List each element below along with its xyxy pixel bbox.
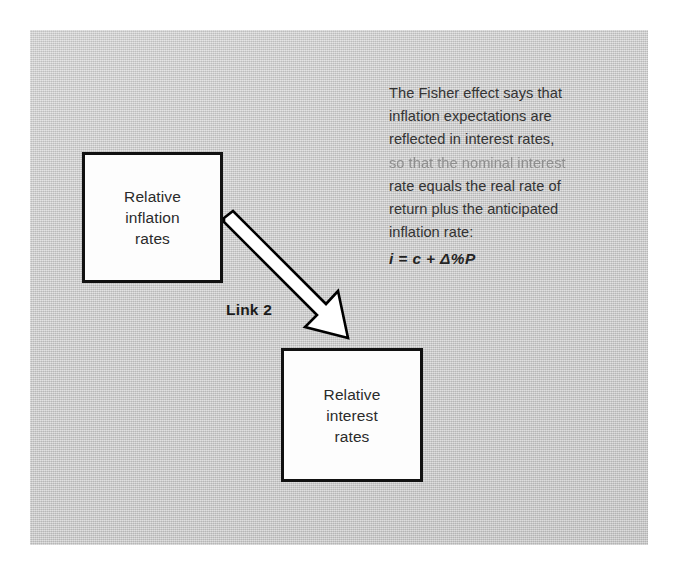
- fisher-equation: i = c + Δ%P: [389, 247, 629, 270]
- node-label-line: inflation: [125, 207, 179, 228]
- node-relative-interest-rates[interactable]: Relative interest rates: [281, 348, 423, 482]
- node-label-line: Relative: [124, 186, 181, 207]
- description-line-2: inflation expectations are: [389, 105, 629, 128]
- node-label-line: Relative: [324, 384, 381, 405]
- description-line-6: return plus the anticipated: [389, 198, 629, 221]
- description-line-7: inflation rate:: [389, 221, 629, 244]
- node-relative-inflation-rates[interactable]: Relative inflation rates: [82, 152, 223, 283]
- node-label-line: rates: [135, 228, 170, 249]
- link-arrow-icon: [210, 205, 365, 355]
- link-2-label: Link 2: [226, 301, 272, 319]
- node-label-line: interest: [326, 405, 378, 426]
- description-line-4: so that the nominal interest: [389, 152, 629, 175]
- description-line-1: The Fisher effect says that: [389, 82, 629, 105]
- figure-page: Relative inflation rates Relative intere…: [0, 0, 673, 564]
- node-label-line: rates: [335, 426, 370, 447]
- description-line-3: reflected in interest rates,: [389, 128, 629, 151]
- description-line-5: rate equals the real rate of: [389, 175, 629, 198]
- fisher-effect-description: The Fisher effect says that inflation ex…: [389, 82, 629, 271]
